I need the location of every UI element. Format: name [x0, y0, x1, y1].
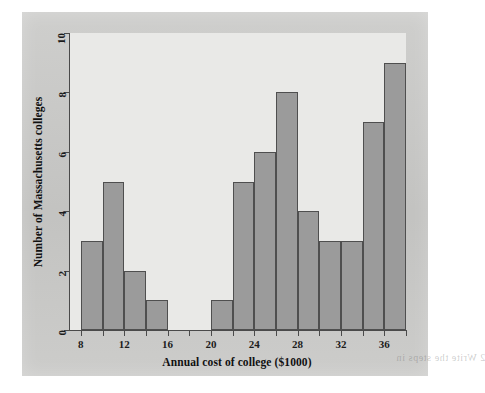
x-axis-tick [81, 330, 82, 336]
histogram-bar [298, 211, 320, 330]
x-axis-tick [168, 330, 169, 336]
histogram-bar [276, 92, 298, 330]
histogram-bar [254, 152, 276, 330]
x-axis-tick-label: 24 [249, 338, 260, 350]
histogram-bars [70, 33, 406, 330]
y-axis-title: Number of Massachusetts colleges [30, 33, 46, 330]
y-axis-tick-label: 2 [55, 271, 67, 277]
x-axis-minor-tick [363, 330, 364, 336]
x-axis-minor-tick [406, 330, 407, 336]
x-axis-tick-label: 28 [292, 338, 303, 350]
x-axis-minor-tick [189, 330, 190, 336]
y-axis-tick-label: 4 [55, 211, 67, 217]
x-axis-tick [254, 330, 255, 336]
y-axis-tick-label: 8 [55, 92, 67, 98]
y-axis-tick-label: 0 [55, 330, 67, 336]
x-axis-tick [211, 330, 212, 336]
histogram-bar [319, 241, 341, 330]
x-axis-tick [298, 330, 299, 336]
x-axis-minor-tick [103, 330, 104, 336]
x-axis-tick-label: 20 [205, 338, 216, 350]
histogram-bar [81, 241, 103, 330]
x-axis-tick-label: 36 [379, 338, 390, 350]
x-axis-tick-label: 12 [119, 338, 130, 350]
x-axis-minor-tick [233, 330, 234, 336]
histogram-bar [233, 182, 255, 331]
x-axis-tick [341, 330, 342, 336]
y-axis-tick-label: 10 [55, 33, 67, 44]
histogram-bar [124, 271, 146, 330]
histogram-bar [211, 300, 233, 330]
histogram-bar [146, 300, 168, 330]
x-axis-tick-label: 8 [78, 338, 84, 350]
histogram-bar [103, 182, 125, 331]
x-axis-minor-tick [146, 330, 147, 336]
x-axis-minor-tick [276, 330, 277, 336]
histogram-bar [341, 241, 363, 330]
x-axis-title: Annual cost of college ($1000) [69, 356, 405, 368]
histogram-bar [384, 63, 406, 330]
x-axis-tick-label: 32 [335, 338, 346, 350]
y-axis-tick-label: 6 [55, 152, 67, 158]
histogram-bar [363, 122, 385, 330]
x-axis-tick [384, 330, 385, 336]
x-axis-tick [124, 330, 125, 336]
histogram-plot-area: 0246810 812162024283236 [69, 33, 406, 331]
y-axis-title-label: Number of Massachusetts colleges [32, 96, 44, 267]
x-axis-tick-label: 16 [162, 338, 173, 350]
x-axis-minor-tick [319, 330, 320, 336]
